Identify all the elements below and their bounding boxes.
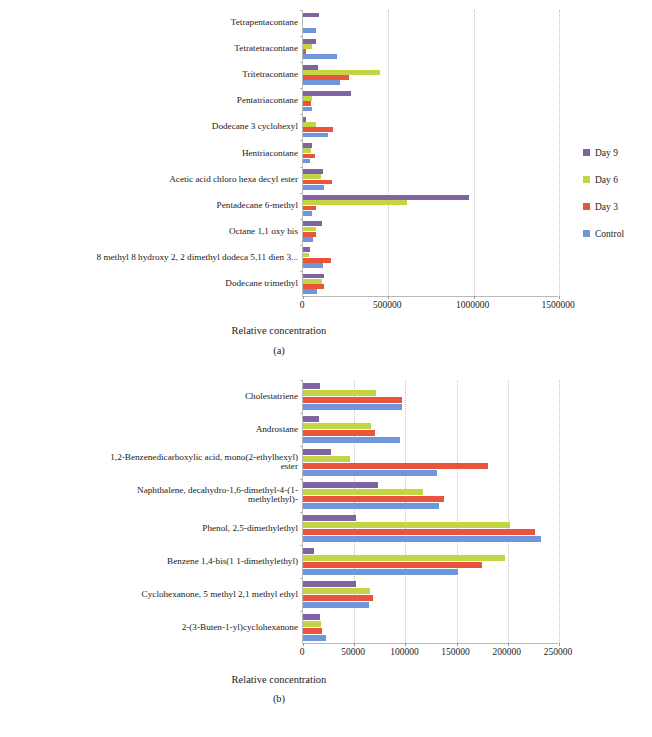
bar-day-9: [303, 274, 324, 279]
x-tick-label: 250000: [544, 647, 573, 657]
x-tick-label: 150000: [441, 647, 470, 657]
bar-control: [303, 80, 340, 85]
bar-control: [303, 437, 400, 444]
bar-day-3: [303, 284, 324, 289]
category-tick: [300, 114, 303, 115]
bar-day-6: [303, 200, 407, 205]
category-label: Tetrapentacontane: [2, 18, 298, 28]
bar-control: [303, 536, 541, 543]
category-label: Cyclohexanone, 5 methyl 2,1 methyl ethyl: [2, 590, 298, 600]
bar-day-6: [303, 621, 321, 628]
bar-control: [303, 404, 402, 411]
bar-day-6: [303, 522, 510, 529]
bar-day-3: [303, 430, 375, 437]
bar-day-3: [303, 49, 306, 54]
category-tick: [300, 611, 303, 612]
bar-day-3: [303, 101, 311, 106]
category-label: Dodecane trimethyl: [2, 279, 298, 289]
bar-day-3: [303, 75, 349, 80]
bar-day-6: [303, 456, 350, 463]
bar-day-6: [303, 390, 376, 397]
category-tick: [300, 193, 303, 194]
bar-control: [303, 263, 323, 268]
category-tick: [300, 140, 303, 141]
x-tick-label: 0: [300, 647, 305, 657]
bar-control: [303, 211, 312, 216]
bar-day-3: [303, 529, 535, 536]
bar-day-6: [303, 44, 312, 49]
x-axis-a: 050000010000001500000: [0, 297, 652, 317]
legend-item[interactable]: Day 3: [583, 193, 624, 220]
category-tick: [300, 545, 303, 546]
chart-panel-b: CholestatrieneAndrostane1,2-Benzenedicar…: [0, 372, 652, 737]
bar-day-3: [303, 562, 482, 569]
category-label: Pentadecane 6-methyl: [2, 201, 298, 211]
category-tick: [300, 36, 303, 37]
bar-day-6: [303, 253, 309, 258]
bar-day-9: [303, 383, 320, 390]
category-label: Benzene 1,4-bis(1 1-dimethylethyl): [2, 557, 298, 567]
legend-item[interactable]: Day 9: [583, 139, 624, 166]
bar-day-3: [303, 595, 373, 602]
bar-day-3: [303, 154, 315, 159]
category-labels-b: CholestatrieneAndrostane1,2-Benzenedicar…: [0, 380, 302, 644]
bars-region-b: [302, 380, 558, 644]
legend-item[interactable]: Control: [583, 220, 624, 247]
bar-day-6: [303, 279, 322, 284]
bar-day-9: [303, 221, 322, 226]
bar-day-6: [303, 423, 371, 430]
category-tick: [300, 380, 303, 381]
bar-control: [303, 602, 369, 609]
legend-swatch-icon: [583, 149, 590, 156]
category-label: Naphthalene, decahydro-1,6-dimethyl-4-(1…: [2, 486, 298, 506]
bar-day-6: [303, 148, 311, 153]
category-tick: [300, 245, 303, 246]
x-axis-title-a: Relative concentration: [0, 325, 558, 336]
category-tick: [300, 271, 303, 272]
bar-control: [303, 107, 312, 112]
category-label: Tritetracontane: [2, 70, 298, 80]
legend-label: Day 3: [595, 202, 618, 212]
bar-day-9: [303, 91, 351, 96]
category-label: Androstane: [2, 425, 298, 435]
bar-day-6: [303, 96, 312, 101]
bar-control: [303, 635, 326, 642]
legend-item[interactable]: Day 6: [583, 166, 624, 193]
bar-day-6: [303, 588, 370, 595]
legend-swatch-icon: [583, 230, 590, 237]
legend-label: Day 9: [595, 148, 618, 158]
category-label: Octane 1,1 oxy bis: [2, 227, 298, 237]
category-tick: [300, 446, 303, 447]
gridline: [508, 380, 509, 643]
gridline: [457, 380, 458, 643]
x-axis-title-b: Relative concentration: [0, 674, 558, 685]
x-tick-label: 1500000: [541, 300, 574, 310]
bar-day-9: [303, 65, 318, 70]
category-label: Acetic acid chloro hexa decyl ester: [2, 175, 298, 185]
bar-day-9: [303, 117, 306, 122]
panel-letter-b: (b): [0, 693, 558, 704]
category-tick: [300, 62, 303, 63]
legend-swatch-icon: [583, 203, 590, 210]
category-tick: [300, 10, 303, 11]
bar-day-3: [303, 463, 488, 470]
bar-day-6: [303, 227, 316, 232]
x-tick-label: 1000000: [456, 300, 489, 310]
bar-day-9: [303, 13, 319, 18]
bar-day-9: [303, 614, 320, 621]
category-label: Hentriacontane: [2, 149, 298, 159]
category-tick: [300, 512, 303, 513]
bar-day-6: [303, 122, 316, 127]
category-tick: [300, 219, 303, 220]
gridline: [559, 380, 560, 643]
bar-day-3: [303, 397, 402, 404]
category-label: 2-(3-Buten-1-yl)cyclohexanone: [2, 623, 298, 633]
bar-day-3: [303, 628, 322, 635]
bar-day-9: [303, 39, 316, 44]
category-labels-a: TetrapentacontaneTetratetracontaneTritet…: [0, 10, 302, 297]
bar-day-9: [303, 449, 331, 456]
chart-panel-a: TetrapentacontaneTetratetracontaneTritet…: [0, 0, 652, 372]
bar-control: [303, 503, 439, 510]
bars-region-a: [302, 10, 558, 297]
bar-day-6: [303, 489, 423, 496]
